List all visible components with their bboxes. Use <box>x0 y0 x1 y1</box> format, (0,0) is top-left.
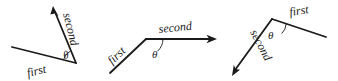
right-first-arm <box>272 19 326 37</box>
diagram-middle: θ first second <box>104 18 217 73</box>
right-second-arrowhead <box>232 65 240 76</box>
right-theta-label: θ <box>268 29 274 41</box>
left-second-arrowhead <box>50 6 58 16</box>
angle-diagram-figure: θ first second θ first second θ first se… <box>0 0 338 81</box>
middle-second-label: second <box>158 18 194 36</box>
middle-angle-arc <box>158 39 164 51</box>
left-theta-label: θ <box>62 48 70 61</box>
right-first-label: first <box>288 2 310 19</box>
left-second-label: second <box>60 11 82 48</box>
left-first-label: first <box>25 61 48 79</box>
figure-canvas: θ first second θ first second θ first se… <box>0 0 338 81</box>
diagram-right: θ first second <box>232 2 326 76</box>
right-angle-arc <box>282 24 287 34</box>
middle-theta-label: θ <box>152 48 158 60</box>
diagram-left: θ first second <box>12 6 82 80</box>
middle-first-label: first <box>104 43 128 67</box>
